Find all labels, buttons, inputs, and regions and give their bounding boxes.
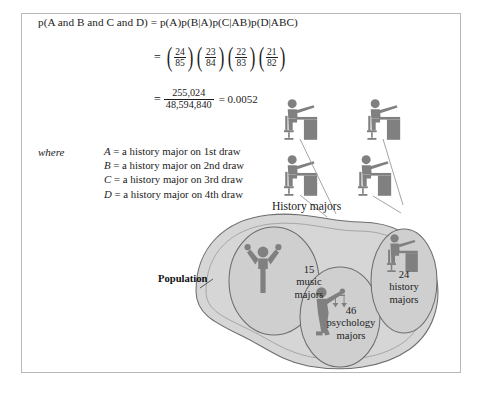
where-item-c-text: a history major on 3rd draw — [123, 173, 243, 185]
music-majors-name-2: majors — [286, 289, 332, 301]
where-item-d-symbol: D — [104, 188, 112, 200]
where-item-a: A = a history major on 1st draw — [104, 144, 244, 158]
result-denominator: 48,594,840 — [164, 99, 214, 111]
paren-right-icon: ) — [249, 46, 255, 68]
paren-left-icon: ( — [197, 46, 203, 68]
paren-left-icon: ( — [228, 46, 234, 68]
result-numerator: 255,024 — [170, 88, 207, 99]
fraction-1: 24 85 — [174, 47, 187, 68]
equation-lhs: p(A and B and C and D) — [38, 16, 148, 28]
where-item-c-symbol: C — [104, 173, 111, 185]
fraction-1-denominator: 85 — [174, 57, 186, 68]
where-item-d: D = a history major on 4th draw — [104, 187, 244, 201]
music-majors-name-1: music — [286, 276, 332, 288]
fraction-3-denominator: 83 — [235, 57, 247, 68]
where-item-d-equals: = — [115, 188, 121, 200]
fraction-group-3: ( 22 83 ) — [226, 46, 257, 68]
history-majors-callout-label: History majors — [272, 200, 341, 213]
where-definition-list: A = a history major on 1st draw B = a hi… — [104, 144, 244, 201]
psychology-majors-name-2: majors — [318, 330, 384, 342]
where-item-b: B = a history major on 2nd draw — [104, 158, 244, 172]
psychology-majors-count: 46 — [318, 305, 384, 317]
where-item-a-symbol: A — [104, 145, 111, 157]
fraction-group-1: ( 24 85 ) — [165, 46, 196, 68]
fraction-4: 21 82 — [266, 47, 279, 68]
where-item-a-text: a history major on 1st draw — [122, 145, 240, 157]
equation-line-1: p(A and B and C and D) = p(A)p(B|A)p(C|A… — [38, 16, 298, 28]
fraction-group-2: ( 23 84 ) — [195, 46, 226, 68]
fraction-group-4: ( 21 82 ) — [257, 46, 288, 68]
fraction-4-denominator: 82 — [266, 57, 278, 68]
equation-equals: = — [151, 16, 157, 28]
equation-rhs: p(A)p(B|A)p(C|AB)p(D|ABC) — [160, 16, 298, 28]
figure-root: p(A and B and C and D) = p(A)p(B|A)p(C|A… — [0, 0, 482, 393]
where-item-d-text: a history major on 4th draw — [123, 188, 243, 200]
music-majors-label: 15 music majors — [286, 264, 332, 301]
where-item-b-equals: = — [113, 159, 119, 171]
where-item-c: C = a history major on 3rd draw — [104, 172, 244, 186]
psychology-majors-name-1: psychology — [318, 317, 384, 329]
paren-right-icon: ) — [188, 46, 194, 68]
history-majors-name-1: history — [381, 281, 427, 293]
fraction-2: 23 84 — [204, 47, 217, 68]
where-item-c-equals: = — [114, 173, 120, 185]
fraction-4-numerator: 21 — [266, 47, 278, 57]
where-item-b-symbol: B — [104, 159, 111, 171]
equation-line-2-equals: = — [154, 50, 161, 65]
result-value: = 0.0052 — [219, 93, 258, 105]
psychology-majors-label: 46 psychology majors — [318, 305, 384, 342]
where-item-a-equals: = — [113, 145, 119, 157]
fraction-3-numerator: 22 — [235, 47, 247, 57]
population-label: Population — [158, 273, 207, 284]
music-majors-count: 15 — [286, 264, 332, 276]
where-keyword: where — [38, 146, 64, 158]
paren-right-icon: ) — [280, 46, 286, 68]
paren-left-icon: ( — [258, 46, 264, 68]
history-majors-group-label: 24 history majors — [381, 269, 427, 306]
history-majors-count: 24 — [381, 269, 427, 281]
where-item-b-text: a history major on 2nd draw — [122, 159, 244, 171]
fraction-3: 22 83 — [235, 47, 248, 68]
paren-right-icon: ) — [219, 46, 225, 68]
fraction-2-denominator: 84 — [205, 57, 217, 68]
result-fraction: 255,024 48,594,840 — [164, 88, 214, 111]
equation-line-2: = ( 24 85 ) ( 23 84 ) ( 22 83 ) ( — [154, 46, 287, 68]
history-majors-name-2: majors — [381, 294, 427, 306]
equation-line-3-equals: = — [154, 92, 161, 107]
equation-line-3: = 255,024 48,594,840 = 0.0052 — [154, 88, 258, 111]
paren-left-icon: ( — [166, 46, 172, 68]
fraction-1-numerator: 24 — [174, 47, 186, 57]
fraction-2-numerator: 23 — [205, 47, 217, 57]
